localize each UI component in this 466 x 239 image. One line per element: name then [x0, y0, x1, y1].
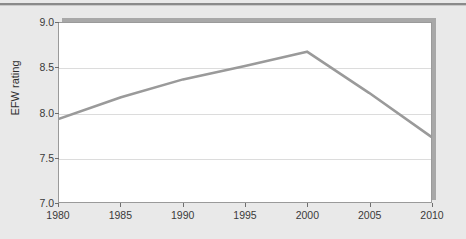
x-axis-tick-mark — [58, 203, 59, 207]
y-axis-tick-mark — [55, 22, 59, 23]
y-axis-tick-labels: 7.07.58.08.59.0 — [20, 22, 54, 203]
x-axis-tick-mark — [307, 203, 308, 207]
y-axis-tick-label: 9.0 — [24, 17, 54, 28]
x-axis-tick-label: 1995 — [223, 210, 267, 221]
x-axis-tick-label: 2005 — [348, 210, 392, 221]
x-axis-tick-mark — [183, 203, 184, 207]
y-axis-tick-mark — [55, 67, 59, 68]
plot-area — [58, 22, 432, 203]
x-axis-tick-label: 1985 — [98, 210, 142, 221]
x-axis-tick-mark — [432, 203, 433, 207]
y-axis-tick-label: 7.5 — [24, 153, 54, 164]
x-axis-tick-label: 2000 — [285, 210, 329, 221]
y-axis-tick-label: 7.0 — [24, 198, 54, 209]
x-axis-tick-mark — [370, 203, 371, 207]
y-axis-title: EFW rating — [9, 45, 21, 131]
y-axis-tick-label: 8.0 — [24, 108, 54, 119]
y-axis-tick-label: 8.5 — [24, 62, 54, 73]
chart-figure: 7.07.58.08.59.0 EFW rating 1980198519901… — [0, 8, 466, 239]
y-axis-tick-mark — [55, 113, 59, 114]
x-axis-tick-label: 1990 — [161, 210, 205, 221]
top-divider-rule-highlight — [0, 5, 466, 6]
series-line-efw-rating — [59, 23, 431, 202]
x-axis-tick-label: 2010 — [410, 210, 454, 221]
y-axis-tick-mark — [55, 158, 59, 159]
x-axis-tick-mark — [245, 203, 246, 207]
x-axis-tick-mark — [120, 203, 121, 207]
x-axis-tick-label: 1980 — [36, 210, 80, 221]
